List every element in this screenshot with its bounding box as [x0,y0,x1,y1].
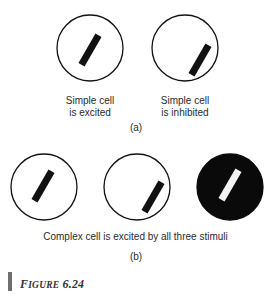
label-a2: Simple cell is inhibited [150,95,220,119]
label-a1-line1: Simple cell [55,95,125,107]
figure-label-initial: F [20,277,28,291]
panel-b-caption: Complex cell is excited by all three sti… [20,231,251,243]
figure-label-bar [8,272,12,291]
label-a2-line2: is inhibited [150,107,220,119]
stimulus-a2 [152,15,218,81]
label-a2-line1: Simple cell [150,95,220,107]
figure-label: FIGURE 6.24 [20,277,84,292]
figure-label-rest: IGURE [28,280,59,290]
stimulus-b2 [104,154,170,220]
stimulus-b1 [11,154,77,220]
panel-a-tag: (a) [120,122,152,134]
figure-number: 6.24 [63,277,85,291]
stimulus-b3 [197,154,263,220]
panel-b-tag: (b) [120,251,152,263]
label-a1: Simple cell is excited [55,95,125,119]
label-a1-line2: is excited [55,107,125,119]
stimulus-a1 [57,15,123,81]
